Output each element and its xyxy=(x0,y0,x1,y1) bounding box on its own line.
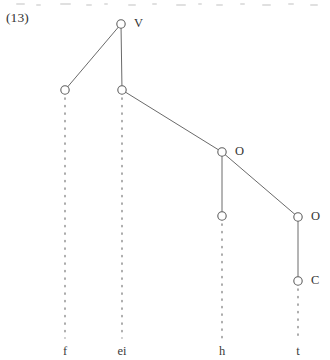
association-lines xyxy=(65,98,298,338)
tree-node xyxy=(61,86,69,94)
terminal-label: f xyxy=(51,345,79,358)
terminal-label: ei xyxy=(108,345,136,358)
tree-node xyxy=(294,213,302,221)
figure-root: (13) VOOC feiht xyxy=(0,0,330,360)
tree-diagram-svg xyxy=(0,0,330,360)
node-label: V xyxy=(134,17,143,30)
tree-node xyxy=(218,212,226,220)
terminal-label: h xyxy=(208,345,236,358)
terminal-label: t xyxy=(284,345,312,358)
node-label: C xyxy=(311,274,319,287)
tree-edge xyxy=(68,27,119,87)
tree-edges xyxy=(68,27,298,277)
tree-node xyxy=(118,86,126,94)
tree-nodes xyxy=(61,20,302,285)
tree-node xyxy=(218,148,226,156)
node-label: O xyxy=(235,145,244,158)
tree-edge xyxy=(225,155,295,215)
tree-edge xyxy=(121,28,122,86)
tree-edge xyxy=(126,92,219,150)
tree-node xyxy=(294,277,302,285)
tree-node xyxy=(117,20,125,28)
node-label: O xyxy=(311,210,320,223)
